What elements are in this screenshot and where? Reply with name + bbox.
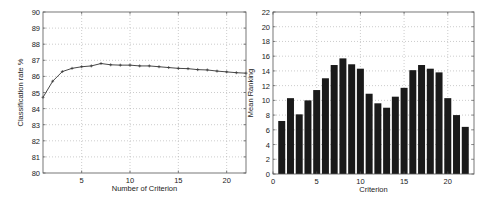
bar xyxy=(409,70,416,174)
y-tick-label: 14 xyxy=(262,67,270,76)
y-tick-label: 88 xyxy=(32,40,40,49)
bar xyxy=(383,108,390,174)
y-tick-label: 20 xyxy=(262,23,270,32)
y-tick-label: 18 xyxy=(262,37,270,46)
y-tick-label: 10 xyxy=(262,96,270,105)
bar xyxy=(401,88,408,174)
y-tick-label: 86 xyxy=(32,72,40,81)
y-tick-label: 6 xyxy=(266,126,270,135)
x-axis-label: Number of Criterion xyxy=(112,184,177,193)
bar xyxy=(304,100,311,174)
y-tick-label: 2 xyxy=(266,155,270,164)
x-tick-label: 5 xyxy=(80,176,84,185)
x-tick-label: 0 xyxy=(271,177,275,186)
x-tick-label: 20 xyxy=(222,176,230,185)
x-tick-label: 15 xyxy=(400,177,408,186)
x-axis-label: Criterion xyxy=(359,185,387,194)
bar xyxy=(392,97,399,174)
bar xyxy=(444,98,451,174)
y-tick-label: 80 xyxy=(32,169,40,178)
y-tick-label: 82 xyxy=(32,137,40,146)
bar xyxy=(374,103,381,174)
y-tick-label: 83 xyxy=(32,121,40,130)
bar xyxy=(462,127,469,174)
bar xyxy=(287,98,294,174)
bar xyxy=(418,65,425,174)
y-axis-label: Mean Ranking xyxy=(246,69,255,117)
y-tick-label: 0 xyxy=(266,170,270,179)
y-tick-label: 85 xyxy=(32,89,40,98)
y-tick-label: 22 xyxy=(262,8,270,17)
classification-rate-line-chart: 80818283848586878889905101520Number of C… xyxy=(16,8,248,193)
bar xyxy=(313,90,320,174)
y-tick-label: 8 xyxy=(266,111,270,120)
y-axis-label: Classification rate % xyxy=(16,58,25,126)
bar xyxy=(357,69,364,174)
mean-ranking-bar-chart: 024681012141618202205101520CriterionMean… xyxy=(246,8,474,194)
y-tick-label: 16 xyxy=(262,52,270,61)
y-tick-label: 4 xyxy=(266,141,270,150)
bar xyxy=(436,72,443,174)
y-tick-label: 12 xyxy=(262,82,270,91)
x-tick-label: 5 xyxy=(315,177,319,186)
y-tick-label: 84 xyxy=(32,105,40,114)
y-tick-label: 87 xyxy=(32,56,40,65)
bar xyxy=(339,58,346,174)
bar xyxy=(453,115,460,174)
bar xyxy=(278,121,285,174)
y-tick-label: 81 xyxy=(32,153,40,162)
x-tick-label: 20 xyxy=(444,177,452,186)
bar xyxy=(366,94,373,174)
bar xyxy=(427,69,434,174)
bar xyxy=(296,114,303,174)
bar xyxy=(322,78,329,174)
bar xyxy=(348,64,355,174)
y-tick-label: 90 xyxy=(32,8,40,17)
y-tick-label: 89 xyxy=(32,24,40,33)
bar xyxy=(331,65,338,174)
figure: 80818283848586878889905101520Number of C… xyxy=(0,0,493,201)
plot-frame xyxy=(273,12,474,174)
